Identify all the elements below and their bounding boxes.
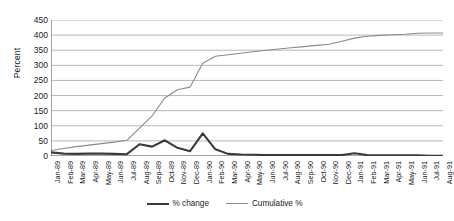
y-axis-tick-label: 250 [22,76,48,85]
x-axis-tick-label: Jun-91 [421,161,429,183]
axis-tickmarks [51,20,443,156]
series-line-change [51,133,443,155]
x-axis-tick-label: May-90 [256,161,264,185]
y-axis-tick-labels: 050100150200250300350400450 [22,0,48,221]
x-axis-tick-label: Sep-90 [307,161,315,184]
plot-area [51,20,443,156]
series-lines [51,33,443,156]
y-axis-tick-label: 450 [22,16,48,25]
legend-line-swatch-cumulative [226,203,248,204]
y-axis-tick-label: 50 [22,137,48,146]
x-axis-tick-label: Nov-89 [180,161,188,184]
y-axis-tick-label: 350 [22,46,48,55]
x-axis-tick-label: Jul-89 [130,161,138,181]
x-axis-tick-label: Jul-90 [282,161,290,181]
x-axis-tick-label: May-89 [105,161,113,185]
x-axis-tick-label: Jan-90 [206,161,214,183]
x-axis-tick-label: Mar-91 [383,161,391,184]
legend-entry-cumulative: Cumulative % [226,199,303,208]
x-axis-tick-label: Jun-90 [269,161,277,183]
x-axis-tick-label: Feb-91 [370,161,378,184]
y-axis-tick-label: 0 [22,152,48,161]
x-axis-tick-label: Jul-91 [433,161,441,181]
legend-line-swatch-change [147,203,169,205]
x-axis-tick-label: Oct-89 [168,161,176,183]
x-axis-tick-label: Aug-91 [446,161,454,184]
x-axis-tick-label: Apr-90 [244,161,252,183]
y-axis-title: Percent [12,33,22,93]
x-axis-tick-label: Feb-90 [218,161,226,184]
x-axis-tick-label: Mar-89 [79,161,87,184]
gridlines [51,20,443,156]
x-axis-tick-label: Sep-89 [155,161,163,184]
legend-entry-change: % change [147,199,209,208]
x-axis-tick-label: Apr-91 [395,161,403,183]
series-line-cumulative [51,33,443,151]
x-axis-tick-label: Dec-90 [345,161,353,184]
plot-svg [51,20,443,156]
x-axis-tick-labels: Jan-89Feb-89Mar-89Apr-89May-89Jun-89Jul-… [51,161,443,201]
x-axis-tick-label: Mar-90 [231,161,239,184]
y-axis-tick-label: 150 [22,106,48,115]
x-axis-tick-label: Apr-89 [92,161,100,183]
x-axis-tick-label: Jan-89 [54,161,62,183]
x-axis-tick-label: Jan-91 [357,161,365,183]
chart-legend: % change Cumulative % [0,199,449,208]
x-axis-tick-label: Aug-89 [143,161,151,184]
x-axis-tick-label: Feb-89 [67,161,75,184]
y-axis-tick-label: 100 [22,122,48,131]
x-axis-tick-label: Oct-90 [320,161,328,183]
x-axis-tick-label: May-91 [408,161,416,185]
x-axis-tick-label: Aug-90 [294,161,302,184]
y-axis-tick-label: 200 [22,91,48,100]
x-axis-tick-label: Jun-89 [117,161,125,183]
x-axis-tick-label: Dec-89 [193,161,201,184]
legend-label-cumulative: Cumulative % [252,199,303,208]
x-axis-tick-label: Nov-90 [332,161,340,184]
legend-label-change: % change [173,199,209,208]
y-axis-tick-label: 400 [22,31,48,40]
y-axis-tick-label: 300 [22,61,48,70]
